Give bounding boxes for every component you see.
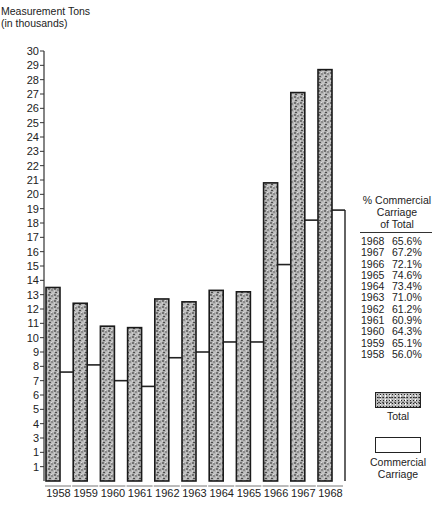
y-tick-label: 16 xyxy=(27,246,39,258)
y-tick-label: 27 xyxy=(27,88,39,100)
legend-commercial: Commercial Carriage xyxy=(356,437,439,480)
pct-value: 67.2% xyxy=(392,247,432,258)
pct-row: 196767.2% xyxy=(361,247,432,258)
total-bar xyxy=(155,299,169,481)
y-tick-label: 22 xyxy=(27,160,39,172)
legend-total: Total xyxy=(366,392,430,422)
y-tick-label: 7 xyxy=(33,375,39,387)
pct-table-header: % Commercial Carriage of Total xyxy=(352,194,439,230)
x-tick-label: 1968 xyxy=(318,487,342,499)
x-tick-label: 1959 xyxy=(73,487,97,499)
pct-row: 195856.0% xyxy=(361,349,432,360)
x-tick-label: 1962 xyxy=(155,487,179,499)
y-tick-label: 18 xyxy=(27,217,39,229)
y-tick-label: 19 xyxy=(27,203,39,215)
y-tick-label: 4 xyxy=(33,418,39,430)
total-bar xyxy=(46,288,60,482)
y-tick-label: 17 xyxy=(27,231,39,243)
y-tick-label: 28 xyxy=(27,74,39,86)
total-bar xyxy=(264,183,278,481)
y-tick-label: 14 xyxy=(27,274,39,286)
legend-total-label: Total xyxy=(366,410,430,422)
y-tick-label: 5 xyxy=(33,403,39,415)
bars xyxy=(46,70,345,481)
y-tick-label: 23 xyxy=(27,145,39,157)
total-bar xyxy=(73,303,87,481)
total-bar xyxy=(182,302,196,481)
y-tick-label: 29 xyxy=(27,59,39,71)
x-tick-label: 1966 xyxy=(264,487,288,499)
y-axis: 3029282726252423222120191817161514131211… xyxy=(27,45,44,481)
pct-year: 1960 xyxy=(361,326,392,337)
y-tick-label: 3 xyxy=(33,432,39,444)
y-tick-label: 30 xyxy=(27,45,39,57)
pct-value: 56.0% xyxy=(392,349,432,360)
y-tick-label: 10 xyxy=(27,332,39,344)
pct-table-rule xyxy=(360,232,432,233)
x-tick-label: 1961 xyxy=(128,487,152,499)
y-tick-label: 13 xyxy=(27,289,39,301)
y-tick-label: 25 xyxy=(27,117,39,129)
x-tick-label: 1958 xyxy=(46,487,70,499)
x-axis-labels: 1958195919601961196219631964196519661967… xyxy=(45,486,343,499)
y-tick-label: 6 xyxy=(33,389,39,401)
y-tick-label: 21 xyxy=(27,174,39,186)
y-tick-label: 15 xyxy=(27,260,39,272)
legend-commercial-label-line2: Carriage xyxy=(356,468,439,480)
y-tick-label: 26 xyxy=(27,102,39,114)
y-tick-label: 12 xyxy=(27,303,39,315)
total-bar xyxy=(100,326,114,481)
pct-header-line3: of Total xyxy=(352,218,439,230)
total-bar xyxy=(318,70,332,481)
x-tick-label: 1963 xyxy=(182,487,206,499)
legend-total-swatch xyxy=(375,392,421,408)
total-bar xyxy=(236,292,250,481)
y-tick-label: 20 xyxy=(27,188,39,200)
pct-year: 1967 xyxy=(361,247,392,258)
y-tick-label: 1 xyxy=(33,461,39,473)
total-bar xyxy=(209,290,223,481)
pct-table: 196865.6%196767.2%196672.1%196574.6%1964… xyxy=(361,236,432,360)
x-tick-label: 1967 xyxy=(291,487,315,499)
pct-header-line2: Carriage xyxy=(352,206,439,218)
y-tick-label: 9 xyxy=(33,346,39,358)
pct-header-line1: % Commercial xyxy=(352,194,439,206)
y-tick-label: 8 xyxy=(33,360,39,372)
pct-value: 64.3% xyxy=(392,326,432,337)
y-tick-label: 11 xyxy=(28,317,39,329)
legend-commercial-swatch xyxy=(375,437,421,453)
total-bar xyxy=(291,93,305,481)
pct-year: 1958 xyxy=(361,349,392,360)
total-bar xyxy=(128,328,142,481)
y-tick-label: 24 xyxy=(27,131,39,143)
pct-row: 196064.3% xyxy=(361,326,432,337)
x-tick-label: 1960 xyxy=(101,487,125,499)
y-tick-label: 1 xyxy=(33,446,39,458)
x-tick-label: 1964 xyxy=(209,487,233,499)
x-tick-label: 1965 xyxy=(237,487,261,499)
legend-commercial-label-line1: Commercial xyxy=(356,456,439,468)
